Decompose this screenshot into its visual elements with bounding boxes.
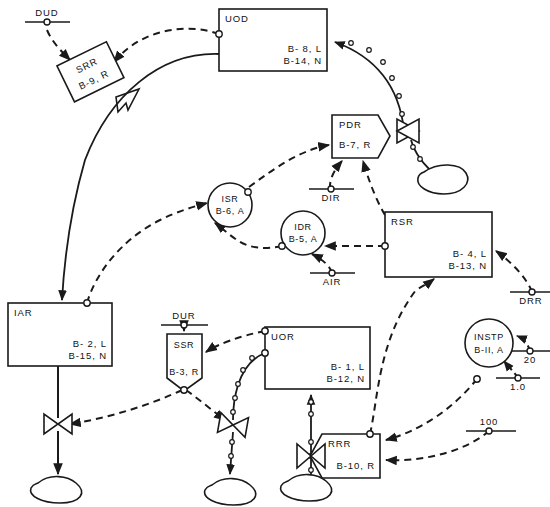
link-100-rrr	[386, 431, 489, 460]
block-name-instp: INSTP	[474, 332, 504, 342]
link-uod-srr	[114, 29, 219, 62]
block-isr[interactable]: ISR B-6, A	[208, 183, 252, 227]
block-name-uor: UOR	[271, 331, 295, 342]
block-name-uod: UOD	[225, 13, 249, 24]
block-tag1-instp: B-II, A	[474, 345, 503, 355]
source-label-dir: DIR	[321, 192, 340, 203]
vessel-ssr[interactable]	[205, 479, 256, 505]
source-label-drr: DRR	[519, 295, 542, 306]
block-name-isr: ISR	[221, 194, 238, 204]
link-drr-rsr	[496, 251, 532, 292]
block-name-pdr: PDR	[339, 119, 362, 130]
block-tag1-ssr: B-3, R	[169, 367, 199, 377]
vessel-iar[interactable]	[31, 477, 82, 503]
block-tag2-rsr: B-13, N	[448, 260, 487, 271]
source-air[interactable]: AIR	[310, 270, 355, 287]
block-tag1-pdr: B-7, R	[339, 139, 371, 150]
valve-symbols	[44, 119, 419, 468]
valve-pdr[interactable]	[397, 119, 419, 143]
link-dud-srr	[47, 30, 70, 60]
link-rrr-rsr	[370, 279, 434, 434]
link-rsr-pdr	[363, 161, 385, 215]
block-tag1-rrr: B-10, R	[336, 460, 375, 471]
vessel-pdr[interactable]	[418, 165, 468, 194]
source-label-dud: DUD	[35, 7, 58, 18]
block-name-iar: IAR	[14, 307, 33, 318]
block-iar[interactable]: IAR B- 2, L B-15, N	[8, 300, 112, 366]
source-const-20[interactable]: 20	[509, 348, 550, 365]
block-tag1-idr: B-5, A	[289, 234, 318, 244]
block-srr[interactable]: SRR B-9, R	[57, 42, 124, 102]
link-instp-rrr	[386, 379, 477, 440]
source-label-dur: DUR	[172, 310, 195, 321]
block-instp[interactable]: INSTP B-II, A	[465, 319, 513, 382]
source-label-20: 20	[524, 354, 536, 365]
block-uod[interactable]: UOD B- 8, L B-14, N	[216, 9, 327, 71]
source-label-100: 100	[480, 416, 499, 427]
link-dir-pdr	[330, 161, 342, 189]
block-idr[interactable]: IDR B-5, A	[279, 211, 325, 255]
source-label-1p0: 1.0	[510, 381, 526, 392]
block-rsr[interactable]: RSR B- 4, L B-13, N	[382, 212, 492, 277]
block-tag1-rsr: B- 4, L	[453, 248, 487, 259]
block-tag2-iar: B-15, N	[68, 350, 107, 361]
block-tag1-isr: B-6, A	[216, 206, 245, 216]
block-name-rsr: RSR	[391, 216, 414, 227]
source-dur[interactable]: DUR	[161, 310, 208, 328]
link-ssr-valve-iar	[70, 390, 182, 424]
block-name-idr: IDR	[294, 222, 312, 232]
source-drr[interactable]: DRR	[510, 289, 550, 306]
link-uor-ssr	[206, 331, 265, 352]
block-tag1-iar: B- 2, L	[73, 338, 107, 349]
block-tag2-uod: B-14, N	[283, 55, 322, 66]
bead-set-uor	[229, 356, 255, 459]
block-tag1-uor: B- 1, L	[331, 361, 365, 372]
diagram-svg: DUD DIR AIR DRR DUR 20	[0, 0, 550, 507]
source-label-air: AIR	[323, 276, 342, 287]
source-dir[interactable]: DIR	[309, 186, 354, 203]
link-ssr-valve-ssr	[186, 390, 225, 420]
block-ssr[interactable]: SSR B-3, R	[167, 334, 202, 393]
link-isr-pdr	[249, 145, 329, 187]
source-const-100[interactable]: 100	[466, 416, 516, 434]
block-name-ssr: SSR	[174, 340, 195, 350]
block-tag2-uor: B-12, N	[326, 373, 365, 384]
source-dud[interactable]: DUD	[25, 7, 70, 25]
block-name-rrr: RRR	[328, 438, 351, 449]
source-const-1p0[interactable]: 1.0	[496, 375, 540, 392]
link-air-idr	[312, 254, 332, 273]
block-pdr[interactable]: PDR B-7, R	[332, 115, 390, 158]
block-tag1-uod: B- 8, L	[288, 43, 322, 54]
diagram-canvas: DUD DIR AIR DRR DUR 20	[0, 0, 550, 507]
vessel-rrr[interactable]	[281, 475, 332, 501]
link-midvalve-vessel	[230, 432, 233, 474]
link-iar-isr	[87, 203, 207, 303]
block-uor[interactable]: UOR B- 1, L B-12, N	[262, 327, 370, 389]
